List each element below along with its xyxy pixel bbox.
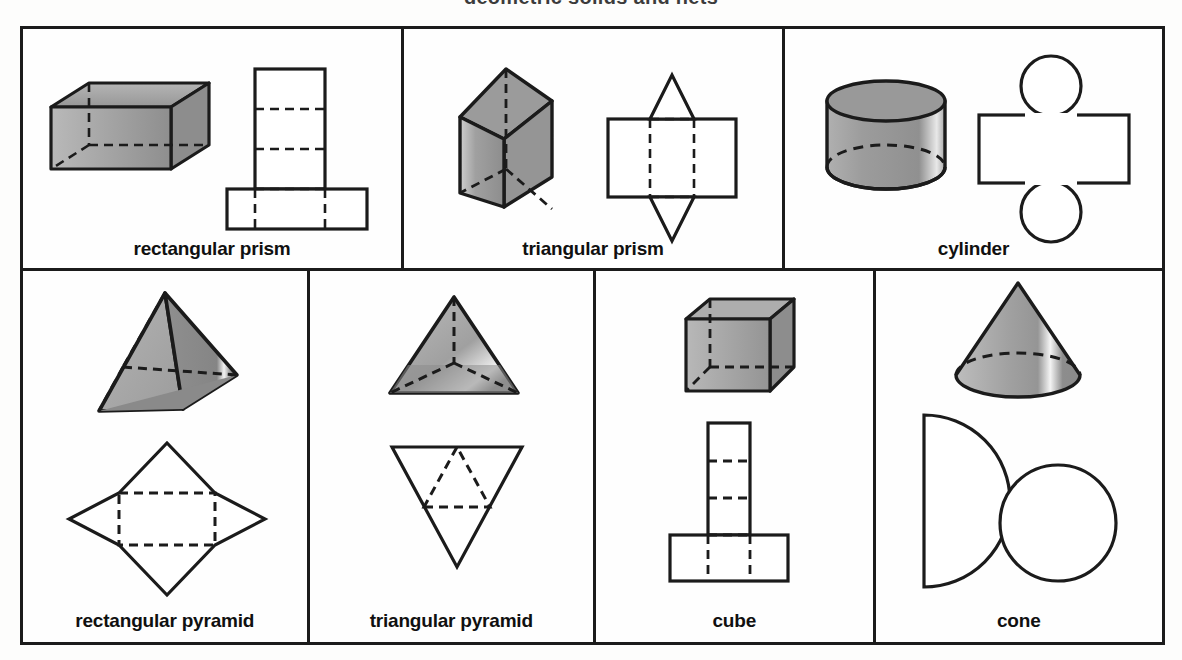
cell-cylinder[interactable]: cylinder <box>785 29 1162 268</box>
page-bleed-text: geometric solids and nets <box>0 0 1182 4</box>
cylinder-solid-icon <box>821 79 951 199</box>
cell-rectangular-pyramid[interactable]: rectangular pyramid <box>23 271 310 642</box>
cell-triangular-prism[interactable]: triangular prism <box>404 29 785 268</box>
cone-solid-icon <box>950 279 1098 407</box>
rectangular-prism-solid-icon <box>45 79 215 199</box>
table-row-bottom: rectangular pyramid <box>23 271 1162 642</box>
cell-cube[interactable]: cube <box>596 271 876 642</box>
triangular-pyramid-solid-icon <box>386 293 526 403</box>
cylinder-net-icon <box>975 53 1135 243</box>
cell-label-triangular-prism: triangular prism <box>404 238 782 260</box>
rectangular-prism-net-icon <box>223 65 383 215</box>
rectangular-pyramid-solid-icon <box>93 289 243 424</box>
cell-triangular-pyramid[interactable]: triangular pyramid <box>310 271 597 642</box>
worksheet-page: geometric solids and nets <box>0 0 1182 660</box>
cube-net-icon <box>666 419 816 599</box>
shapes-table: rectangular prism <box>20 26 1165 645</box>
cell-label-rectangular-pyramid: rectangular pyramid <box>23 610 307 632</box>
rectangular-pyramid-net-icon <box>45 439 289 599</box>
cell-cone[interactable]: cone <box>876 271 1162 642</box>
cube-solid-icon <box>682 295 800 399</box>
triangular-pyramid-net-icon <box>386 443 528 573</box>
table-row-top: rectangular prism <box>23 29 1162 271</box>
cell-label-cylinder: cylinder <box>785 238 1162 260</box>
cell-label-cone: cone <box>876 610 1162 632</box>
cell-rectangular-prism[interactable]: rectangular prism <box>23 29 404 268</box>
cell-label-rectangular-prism: rectangular prism <box>23 238 401 260</box>
cell-label-triangular-pyramid: triangular pyramid <box>310 610 594 632</box>
triangular-prism-net-icon <box>604 71 744 241</box>
cone-net-icon <box>918 411 1128 591</box>
cell-label-cube: cube <box>596 610 873 632</box>
triangular-prism-solid-icon <box>452 61 582 221</box>
